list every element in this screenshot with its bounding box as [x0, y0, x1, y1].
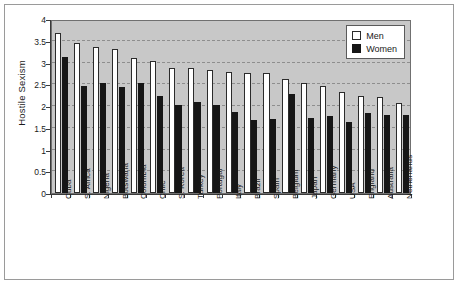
bar-men [169, 68, 175, 193]
bar-men [244, 73, 250, 193]
bar-women [62, 57, 68, 193]
bar-men [131, 58, 137, 193]
y-axis-tick-label: 1.5 [34, 124, 46, 134]
bar-men [207, 70, 213, 193]
bar-men [226, 72, 232, 193]
bar-men [188, 68, 194, 193]
x-axis-tick-mark [51, 194, 52, 198]
y-axis-tick-label: 2.5 [34, 80, 46, 90]
x-axis-tick-label: Botswana [121, 163, 130, 199]
y-axis-tick-mark [46, 107, 50, 108]
y-axis-tick-label: 3.5 [34, 37, 46, 47]
y-axis-tick-labels: 00.511.522.533.54 [25, 5, 46, 286]
bar-women [232, 112, 238, 193]
y-axis-tick-mark [46, 172, 50, 173]
x-axis-tick-label: Japan [310, 177, 319, 199]
bar-men [74, 43, 80, 194]
x-axis-tick-label: Nigeria [102, 173, 111, 199]
y-axis-tick-mark [46, 20, 50, 21]
legend-label-men: Men [366, 31, 384, 41]
x-axis-tick-label: Turkey [196, 174, 205, 199]
x-axis-tick-label: USA [348, 182, 357, 199]
bar-men [358, 96, 364, 193]
x-axis-tick-label: Chile [158, 180, 167, 199]
bar-men [93, 47, 99, 193]
bar-men [339, 92, 345, 193]
legend-swatch-women-icon [352, 44, 361, 53]
x-axis-tick-label: Cuba [64, 179, 73, 199]
bar-men [320, 86, 326, 193]
bar-men [112, 49, 118, 193]
y-axis-tick-label: 0.5 [34, 167, 46, 177]
y-axis-tick-mark [46, 194, 50, 195]
y-axis-tick-mark [46, 42, 50, 43]
legend-item-men: Men [352, 29, 397, 42]
x-axis-tick-label: Colombia [139, 164, 148, 199]
x-axis-tick-label: Australia [386, 167, 395, 199]
y-axis-tick-mark [46, 151, 50, 152]
bar-men [150, 61, 156, 193]
gridline [52, 62, 410, 63]
bar-men [282, 79, 288, 193]
bar-men [263, 73, 269, 193]
y-axis-tick-mark [46, 129, 50, 130]
x-axis-tick-label: Netherlands [405, 155, 414, 199]
x-axis-tick-label: Spain [272, 178, 281, 199]
y-axis-tick-mark [46, 85, 50, 86]
x-axis-tick-label: Belgium [291, 169, 300, 199]
legend-swatch-men-icon [352, 31, 361, 40]
x-axis-tick-label: Brazil [253, 178, 262, 199]
x-axis-tick-label: Italy [234, 184, 243, 199]
x-axis-tick-label: S. Africa [83, 168, 92, 199]
x-axis-tick-label: Germany [329, 165, 338, 199]
legend-label-women: Women [366, 44, 397, 54]
bar-men [301, 83, 307, 193]
bar-men [55, 33, 61, 193]
x-axis-tick-label: England [367, 169, 376, 199]
bar-men [396, 103, 402, 193]
y-axis-tick-mark [46, 64, 50, 65]
chart-legend: Men Women [346, 25, 405, 59]
bar-men [377, 97, 383, 193]
legend-item-women: Women [352, 42, 397, 55]
x-axis-tick-label: Portugal [215, 168, 224, 199]
chart-figure: Hostile Sexism 00.511.522.533.54 Men Wom… [4, 4, 454, 280]
plot-wrapper: Men Women [51, 20, 411, 194]
x-axis-tick-label: S. Korea [177, 167, 186, 199]
bar-women [157, 96, 163, 193]
